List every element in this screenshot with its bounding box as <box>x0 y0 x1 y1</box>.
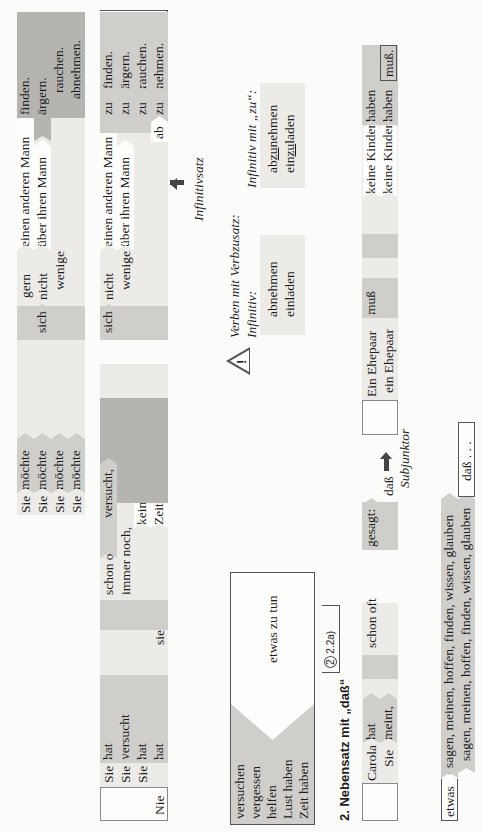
subject: sie <box>151 630 168 645</box>
exclamation-glyph: ! <box>234 360 249 364</box>
verb-list-tag: sagen, meinen, hoffen, finden, wissen, g… <box>441 493 458 778</box>
verb-tag: meint, <box>380 693 397 743</box>
adverb: schon oft <box>363 598 380 648</box>
verb-list-tag: sagen, meinen, hoffen, finden, wissen, g… <box>458 493 475 773</box>
dass-ellipsis: daß . . . <box>458 441 475 481</box>
subject: Sie <box>100 766 117 783</box>
object-tag: keine Kinder <box>363 122 380 197</box>
reference-circle-icon: 2 <box>324 656 337 668</box>
infinitivsatz-label: Infinitivsatz <box>190 157 207 221</box>
adverb: weniger <box>117 247 134 290</box>
final-verb-tag: abnehmen. <box>68 12 85 115</box>
adverb: gern <box>17 274 34 298</box>
verb-tag: versucht <box>117 675 134 763</box>
verb-tag: hat <box>151 675 168 763</box>
infinitiv-zu-label: Infinitiv mit „zu“: <box>243 90 260 188</box>
complement-text: etwas zu tun <box>264 596 281 663</box>
verb-item: versuchen <box>232 764 248 819</box>
final-verb-tag: ärgern. <box>117 12 134 92</box>
final-verb-tag: gesagt: <box>363 498 380 550</box>
object-tag: einen anderen Mann <box>100 114 117 250</box>
verb-tag: möchte <box>68 433 85 493</box>
cross-reference[interactable]: 2 2.2a) <box>322 605 340 673</box>
adverb: weniger <box>51 247 68 290</box>
subjunktor-label: Subjunktor <box>396 429 413 488</box>
object-tag: über ihren Mann <box>34 140 51 250</box>
subject: Ein Ehepaar <box>363 331 380 397</box>
infinitiv-zu-word: einzuladen <box>281 115 298 174</box>
middle-field-shade <box>362 655 398 679</box>
middle-field-shade <box>100 600 168 630</box>
verb-tag: hat <box>134 675 151 763</box>
final-verb-tag: rauchen. <box>134 12 151 92</box>
final-verb-tag: finden. <box>17 12 34 118</box>
subject: ein Ehepaar <box>380 329 397 393</box>
infinitiv-label: Infinitiv: <box>243 291 260 338</box>
verb-item: Zeit haben <box>296 762 312 819</box>
final-verb-tag: nehmen. <box>151 12 168 92</box>
final-verb-tag: versucht, <box>100 458 117 558</box>
object-tag: keine Kinder <box>380 122 397 197</box>
adverb: immer noch, <box>117 527 134 595</box>
subject: Sie <box>117 766 134 783</box>
object-tag: einen anderen Mann <box>17 114 34 250</box>
subject: Sie <box>51 496 68 513</box>
pre-field <box>362 783 398 821</box>
final-verb-tag: rauchen. <box>51 12 68 115</box>
arrowhead-icon <box>170 178 177 190</box>
infinitiv-word: einladen <box>281 271 298 317</box>
final-verb-tag: finden. <box>100 12 117 92</box>
final-verb-tag: ärgern. <box>34 12 51 141</box>
section-heading: 2. Nebensatz mit „daß“ <box>336 679 353 821</box>
verb-tag: hat <box>363 693 380 743</box>
infinitiv-zu-word: abzunehmen <box>264 105 281 173</box>
middle-field-shade <box>362 234 398 258</box>
subject: Sie <box>68 496 85 513</box>
arrowhead-icon <box>380 452 392 459</box>
subjunktor-slot <box>362 400 398 435</box>
verb-tag: muß <box>363 278 380 318</box>
verb-tag: möchte <box>34 433 51 493</box>
subjunktor-word: daß <box>380 477 397 497</box>
verb-tag: hat <box>100 675 117 763</box>
adverb: Nie <box>151 796 168 816</box>
infinitive-tag: haben <box>380 79 397 125</box>
note-title: Verben mit Verbzusatz: <box>226 214 243 338</box>
verb-tag: möchte <box>17 433 34 493</box>
reflexive-tag: sich <box>34 304 51 336</box>
right-arrow-icon <box>384 457 389 471</box>
verb-item: Lust haben <box>280 759 296 819</box>
subject: Sie <box>134 766 151 783</box>
subject: Sie <box>34 496 51 513</box>
etwas-tag: etwas <box>441 773 458 821</box>
textbook-page-rotated: Sie Sie Sie Sie möchte möchte möchte möc… <box>0 0 482 833</box>
subject: Sie <box>17 496 34 513</box>
subject: Sie <box>380 750 397 767</box>
adverb: nicht <box>34 273 51 300</box>
adverb: nicht <box>100 273 117 300</box>
middle-field-shade <box>17 306 85 340</box>
verb-item: helfen <box>264 785 280 819</box>
infinitiv-word: abnehmen <box>264 262 281 317</box>
final-verb-tag: muß. <box>380 45 397 81</box>
subject: Carola <box>363 745 380 781</box>
infinitive-tag: haben <box>363 79 380 125</box>
reflexive-tag: sich <box>100 304 117 336</box>
verb-tag: möchte <box>51 433 68 493</box>
verb-item: vergessen <box>248 766 264 819</box>
object-tag: über ihren Mann <box>117 140 134 250</box>
